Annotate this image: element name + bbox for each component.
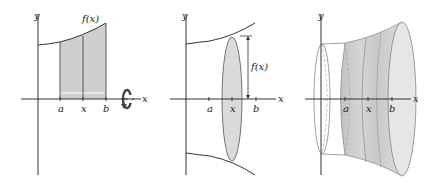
label-a: a: [343, 103, 349, 114]
label-b: b: [253, 103, 259, 114]
label-b: b: [389, 103, 395, 114]
upper-curve: [186, 23, 255, 44]
panel-disk: y x f(x) a x b: [170, 10, 284, 175]
x-axis-label: x: [413, 93, 419, 104]
label-a: a: [207, 103, 213, 114]
panel-region: y x f(x) a x b: [21, 10, 148, 175]
y-axis-label: y: [181, 10, 188, 21]
cylinder-bottom-edge: [322, 154, 345, 155]
lower-curve: [186, 153, 255, 175]
rotation-arrow-icon: [121, 90, 134, 109]
cylinder-top-edge: [322, 43, 345, 44]
function-label: f(x): [250, 61, 268, 72]
panel-solid: y x a x b: [305, 10, 419, 176]
label-x: x: [230, 103, 236, 114]
y-axis-label: y: [33, 10, 40, 21]
label-x: x: [366, 103, 372, 114]
figure-canvas: y x f(x) a x b: [0, 0, 437, 187]
label-x: x: [81, 103, 87, 114]
x-axis-label: x: [142, 93, 148, 104]
y-axis-label: y: [317, 10, 324, 21]
label-a: a: [58, 103, 64, 114]
function-label: f(x): [81, 13, 99, 24]
label-b: b: [103, 103, 109, 114]
x-axis-label: x: [278, 93, 284, 104]
